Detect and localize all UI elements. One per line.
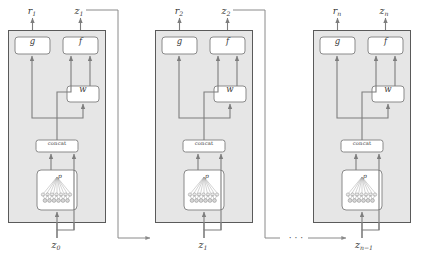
node-label-p: p bbox=[363, 172, 367, 180]
node-label-w: w bbox=[384, 84, 392, 94]
input-label-z1: z1 bbox=[198, 239, 208, 251]
output-label-z2: z2 bbox=[221, 5, 231, 17]
node-label-g: g bbox=[335, 36, 341, 46]
node-label-p: p bbox=[58, 172, 62, 180]
output-label-r2: r2 bbox=[175, 5, 184, 17]
wire-z-in-branch bbox=[57, 222, 74, 238]
block-n: g f w concat p rn zn zn−1 bbox=[314, 5, 411, 251]
output-label-z1: z1 bbox=[74, 5, 84, 17]
node-label-concat: concat bbox=[195, 140, 214, 146]
node-label-w: w bbox=[226, 84, 234, 94]
node-label-w: w bbox=[79, 84, 87, 94]
node-label-concat: concat bbox=[353, 140, 372, 146]
input-label-zn-1: zn−1 bbox=[354, 239, 373, 251]
output-label-rn: rn bbox=[333, 5, 342, 17]
node-label-concat: concat bbox=[48, 140, 67, 146]
node-label-g: g bbox=[177, 36, 183, 46]
output-label-zn: zn bbox=[378, 5, 388, 17]
output-label-r1: r1 bbox=[28, 5, 36, 17]
wire-z-in-branch bbox=[362, 222, 379, 238]
ellipsis-label: · · · bbox=[289, 233, 303, 243]
block-1: g f w concat p r1 z1 z0 bbox=[9, 5, 106, 251]
architecture-diagram: g f w concat p r1 z1 z0 g f w concat p r… bbox=[0, 0, 424, 262]
input-label-z0: z0 bbox=[51, 239, 61, 251]
block-2: g f w concat p r2 z2 z1 bbox=[156, 5, 253, 251]
node-label-p: p bbox=[205, 172, 209, 180]
node-label-g: g bbox=[30, 36, 36, 46]
wire-z-in-branch bbox=[204, 222, 221, 238]
